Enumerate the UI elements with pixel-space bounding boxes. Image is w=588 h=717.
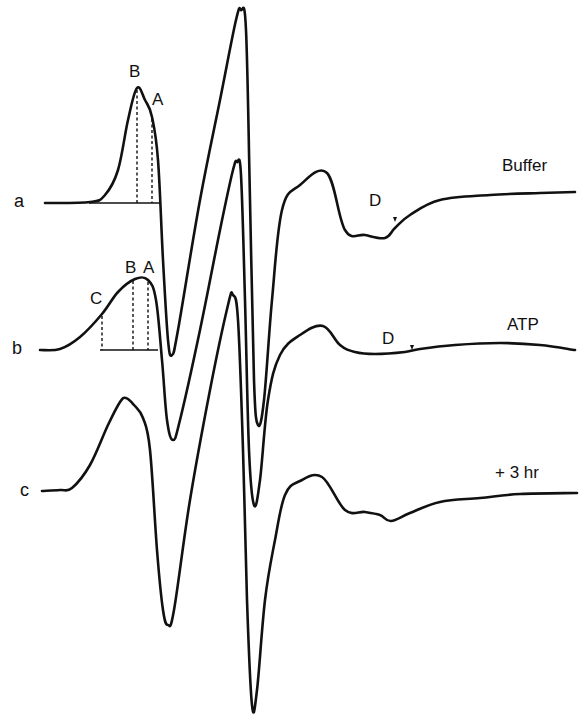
row-label-b: b bbox=[12, 339, 22, 357]
condition-label-3hr: + 3 hr bbox=[495, 464, 539, 481]
spectra-plot bbox=[0, 0, 588, 717]
feature-label-a-D: D bbox=[369, 192, 381, 209]
peak-label-a-A: A bbox=[152, 91, 163, 108]
d-arrow-icon-b bbox=[410, 345, 414, 350]
peak-label-a-B: B bbox=[129, 63, 140, 80]
trace-atp bbox=[40, 160, 575, 507]
row-label-c: c bbox=[20, 481, 29, 499]
d-arrow-icon-a bbox=[393, 217, 397, 222]
peak-label-b-A: A bbox=[143, 259, 154, 276]
row-label-a: a bbox=[14, 192, 24, 210]
peak-label-b-B: B bbox=[125, 259, 136, 276]
trace-buffer bbox=[45, 8, 575, 426]
peak-droplines bbox=[89, 90, 160, 350]
feature-label-b-D: D bbox=[382, 330, 394, 347]
trace-3hr bbox=[42, 292, 577, 712]
peak-label-b-C: C bbox=[90, 290, 102, 307]
condition-label-buffer: Buffer bbox=[502, 157, 547, 174]
condition-label-atp: ATP bbox=[507, 316, 539, 333]
